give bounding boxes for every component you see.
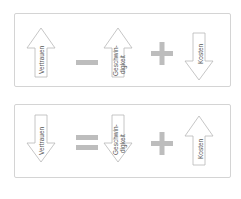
equation-panel-2: Vertrauen Geschwin- digkeit Kosten	[14, 104, 231, 178]
label-vertrauen: Vertrauen	[38, 45, 45, 74]
label-vertrauen: Vertrauen	[38, 126, 45, 155]
label-geschwindigkeit-line2: digkeit	[119, 55, 127, 74]
plus-icon	[151, 132, 173, 155]
arrow-kosten-up: Kosten	[185, 116, 213, 165]
equals-icon	[76, 135, 98, 150]
arrow-vertrauen-up: Vertrauen	[27, 28, 55, 77]
arrow-geschwindigkeit-down: Geschwin- digkeit	[104, 115, 132, 162]
arrow-vertrauen-down: Vertrauen	[27, 115, 55, 162]
label-geschwindigkeit-line2: digkeit	[119, 134, 127, 153]
arrow-kosten-down: Kosten	[181, 33, 213, 80]
minus-icon	[76, 60, 98, 65]
arrow-geschwindigkeit-up: Geschwin- digkeit	[104, 28, 132, 77]
equation-2-svg: Vertrauen Geschwin- digkeit Kosten	[15, 105, 232, 179]
label-geschwindigkeit-line1: Geschwin-	[112, 45, 119, 76]
label-kosten: Kosten	[197, 138, 204, 159]
plus-icon	[151, 42, 173, 65]
label-kosten: Kosten	[197, 43, 204, 64]
equation-panel-1: Vertrauen Geschwin- digkeit Kosten	[14, 13, 231, 87]
label-geschwindigkeit-line1: Geschwin-	[112, 124, 119, 155]
equation-1-svg: Vertrauen Geschwin- digkeit Kosten	[15, 14, 232, 88]
